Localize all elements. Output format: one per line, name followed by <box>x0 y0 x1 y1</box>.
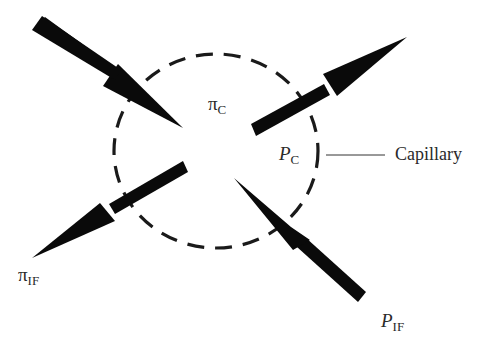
arrow-p-c-outward <box>251 37 407 136</box>
p-symbol: P <box>381 310 393 331</box>
label-pi-c: πC <box>208 94 226 116</box>
subscript-c: C <box>218 102 227 117</box>
label-capillary: Capillary <box>395 145 462 163</box>
label-p-if: PIF <box>381 311 404 333</box>
subscript-if: IF <box>393 319 405 334</box>
subscript-if: IF <box>28 273 40 288</box>
pi-symbol: π <box>18 264 28 285</box>
label-pi-if: πIF <box>18 265 39 287</box>
arrow-pi-if-outward <box>32 161 188 258</box>
starling-forces-diagram <box>0 0 497 341</box>
arrow-pi-c-inward <box>32 16 183 128</box>
label-p-c: PC <box>279 144 299 166</box>
p-symbol: P <box>279 143 291 164</box>
subscript-c: C <box>291 152 300 167</box>
pi-symbol: π <box>208 93 218 114</box>
